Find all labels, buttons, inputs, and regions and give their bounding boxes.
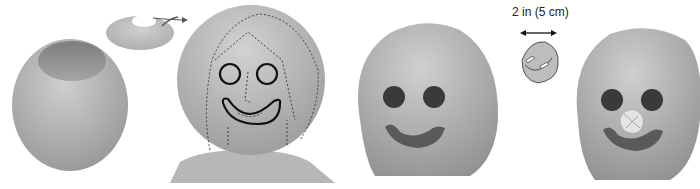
panel-step-3 xyxy=(340,0,510,189)
patched-face-illustration xyxy=(500,0,700,189)
painted-face-illustration xyxy=(340,0,510,189)
nose-patch xyxy=(620,110,643,134)
traced-face-illustration xyxy=(150,0,340,189)
panel-step-2 xyxy=(150,0,340,189)
panel-step-4: 2 in (5 cm) xyxy=(500,0,700,189)
dimension-label: 2 in (5 cm) xyxy=(512,5,569,19)
